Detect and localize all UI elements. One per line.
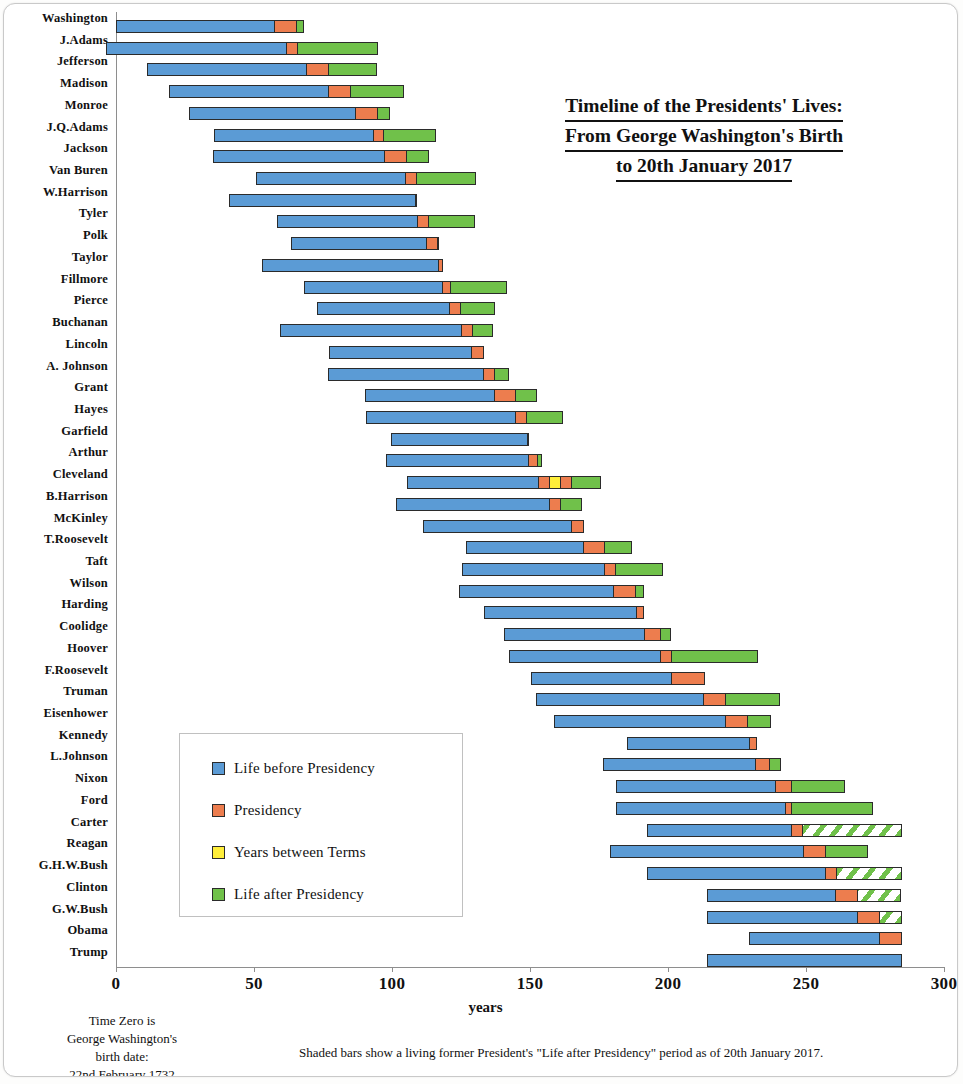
bar-segment-after-living	[857, 890, 901, 901]
y-axis-label-clinton: Clinton	[4, 881, 108, 893]
y-axis-label-taft: Taft	[4, 555, 108, 567]
bar-segment-after	[537, 455, 541, 466]
bar-segment-term	[538, 477, 549, 488]
bar-cleveland	[407, 476, 601, 489]
y-axis-label-g-h-w-bush: G.H.W.Bush	[4, 859, 108, 871]
y-axis-label-fillmore: Fillmore	[4, 273, 108, 285]
bar-jefferson	[147, 63, 377, 76]
bar-segment-term	[703, 694, 724, 705]
bar-jackson	[213, 150, 429, 163]
bar-segment-term	[471, 347, 482, 358]
bar-segment-term	[528, 455, 538, 466]
bar-pierce	[317, 302, 496, 315]
time-zero-note-line: George Washington's	[42, 1030, 202, 1048]
bar-segment-after	[350, 86, 403, 97]
shaded-bars-note: Shaded bars show a living former Preside…	[299, 1045, 939, 1061]
bar-van-buren	[256, 172, 477, 185]
y-axis-label-polk: Polk	[4, 229, 108, 241]
bar-segment-after	[377, 108, 388, 119]
bar-segment-before	[281, 325, 461, 336]
bar-obama	[749, 932, 902, 945]
bar-segment-before	[510, 651, 659, 662]
bar-g-w-bush	[707, 911, 902, 924]
x-axis-tick	[668, 967, 669, 972]
bar-segment-before	[408, 477, 539, 488]
y-axis-label-pierce: Pierce	[4, 294, 108, 306]
bar-segment-before	[604, 759, 755, 770]
bar-buchanan	[280, 324, 493, 337]
bar-clinton	[707, 889, 901, 902]
bar-segment-term	[286, 43, 297, 54]
bar-segment-after	[494, 369, 508, 380]
bar-trump	[707, 954, 902, 967]
x-axis-tick	[116, 967, 117, 972]
y-axis-label-grant: Grant	[4, 381, 108, 393]
bar-segment-after-living	[879, 912, 901, 923]
bar-segment-term	[583, 542, 603, 553]
bar-segment-term	[835, 890, 857, 901]
y-axis-label-coolidge: Coolidge	[4, 620, 108, 632]
bar-segment-before	[367, 412, 515, 423]
bar-segment-before	[190, 108, 356, 119]
bar-segment-after	[660, 629, 670, 640]
bar-segment-before	[537, 694, 703, 705]
bar-kennedy	[627, 737, 757, 750]
bar-segment-before	[424, 521, 571, 532]
y-axis-label-madison: Madison	[4, 77, 108, 89]
y-axis-label-eisenhower: Eisenhower	[4, 707, 108, 719]
bar-b-harrison	[396, 498, 582, 511]
bar-segment-after	[791, 803, 872, 814]
legend-label-between: Years between Terms	[234, 844, 366, 861]
bar-segment-before	[648, 825, 791, 836]
x-axis-tick	[254, 967, 255, 972]
bar-segment-before	[292, 238, 426, 249]
bar-mckinley	[423, 520, 585, 533]
bar-segment-term	[438, 260, 442, 271]
bar-segment-term	[549, 499, 560, 510]
bar-segment-term	[328, 86, 350, 97]
bar-segment-before	[214, 151, 383, 162]
bar-segment-after	[769, 759, 780, 770]
bar-segment-term	[749, 738, 757, 749]
bar-wilson	[459, 585, 644, 598]
chart-title-line-1: Timeline of the Presidents' Lives:	[565, 92, 843, 122]
bar-segment-after	[428, 216, 474, 227]
bar-segment-term	[442, 282, 449, 293]
bar-segment-before	[485, 607, 636, 618]
y-axis-label-f-roosevelt: F.Roosevelt	[4, 664, 108, 676]
y-axis-label-g-w-bush: G.W.Bush	[4, 903, 108, 915]
x-axis-tick-label: 100	[379, 974, 405, 994]
y-axis-label-jackson: Jackson	[4, 142, 108, 154]
bar-grant	[365, 389, 537, 402]
legend-swatch-between-icon	[212, 846, 225, 859]
bar-segment-before	[463, 564, 604, 575]
bar-segment-term	[306, 64, 328, 75]
bar-segment-after	[383, 130, 435, 141]
bar-segment-after	[515, 390, 536, 401]
bar-segment-term	[671, 673, 704, 684]
chart-legend: Life before PresidencyPresidencyYears be…	[179, 733, 463, 917]
bar-segment-before	[263, 260, 439, 271]
x-axis-tick-label: 200	[655, 974, 681, 994]
bar-segment-term	[571, 521, 583, 532]
bar-segment-before	[397, 499, 548, 510]
bar-segment-before	[708, 912, 857, 923]
bar-taft	[462, 563, 663, 576]
bar-segment-after-living	[802, 825, 901, 836]
bar-segment-term	[527, 434, 528, 445]
legend-label-before: Life before Presidency	[234, 760, 375, 777]
bar-segment-term	[825, 868, 836, 879]
bar-segment-before	[230, 195, 415, 206]
bar-segment-term	[384, 151, 406, 162]
bar-truman	[536, 693, 780, 706]
bar-garfield	[391, 433, 529, 446]
bar-segment-term	[725, 716, 747, 727]
bar-segment-term	[449, 303, 460, 314]
x-axis-tick	[530, 967, 531, 972]
y-axis-label-j-adams: J.Adams	[4, 34, 108, 46]
x-axis-tick	[806, 967, 807, 972]
bar-taylor	[262, 259, 443, 272]
y-axis-label-wilson: Wilson	[4, 577, 108, 589]
bar-segment-term	[560, 477, 571, 488]
y-axis-label-l-johnson: L.Johnson	[4, 750, 108, 762]
